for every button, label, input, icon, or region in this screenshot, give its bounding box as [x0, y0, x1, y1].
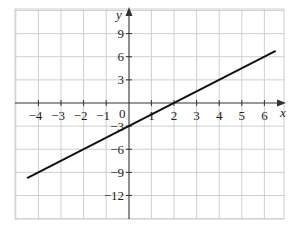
x-tick-label: 3: [193, 108, 200, 123]
x-axis-label: x: [279, 105, 286, 120]
y-axis-arrow-icon: [126, 7, 133, 16]
y-axis-label: y: [114, 7, 122, 22]
chart-svg: −4−3−2−1123456963−3−6−9−12 x y 0: [0, 0, 299, 234]
x-tick-label: 5: [239, 108, 246, 123]
x-tick-label: −3: [51, 108, 65, 123]
y-tick-label: 9: [118, 26, 125, 41]
x-tick-label: 6: [261, 108, 268, 123]
chart-container: −4−3−2−1123456963−3−6−9−12 x y 0: [0, 0, 299, 234]
y-tick-label: −6: [110, 142, 124, 157]
y-tick-label: 3: [118, 72, 125, 87]
x-tick-label: −2: [74, 108, 88, 123]
tick-labels: −4−3−2−1123456963−3−6−9−12: [28, 26, 268, 203]
y-tick-label: 6: [118, 49, 125, 64]
x-tick-label: −1: [96, 108, 110, 123]
origin-label: 0: [119, 106, 126, 121]
x-tick-label: −4: [28, 108, 42, 123]
x-tick-label: 4: [216, 108, 223, 123]
y-tick-label: −9: [110, 165, 124, 180]
x-tick-label: 2: [171, 108, 178, 123]
y-tick-label: −12: [104, 188, 124, 203]
